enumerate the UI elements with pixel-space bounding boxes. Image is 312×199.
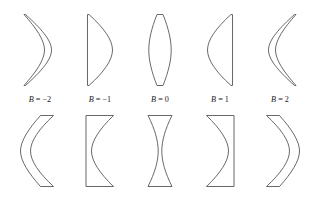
label-b-2: B = 2 <box>271 95 289 104</box>
lens-negative-b-minus-1 <box>86 116 114 187</box>
lens-positive-b-1 <box>208 15 233 86</box>
lens-negative-b-0 <box>148 116 172 187</box>
label-b-1: B = 1 <box>211 95 229 104</box>
positive-lens-row <box>24 15 296 86</box>
lens-negative-b-1 <box>207 116 235 187</box>
label-b-0: B = 0 <box>151 95 169 104</box>
lens-positive-b-minus-2 <box>24 15 52 86</box>
lens-positive-b-minus-1 <box>88 15 113 86</box>
shape-factor-labels: B = −2 B = −1 B = 0 B = 1 B = 2 <box>29 95 289 104</box>
label-b-minus-2: B = −2 <box>29 95 51 104</box>
lens-shape-factor-diagram: B = −2 B = −1 B = 0 B = 1 B = 2 <box>0 0 312 199</box>
lens-negative-b-2 <box>267 116 300 187</box>
lens-positive-b-2 <box>269 15 297 86</box>
lens-negative-b-minus-2 <box>21 116 54 187</box>
lens-positive-b-0 <box>149 15 171 86</box>
label-b-minus-1: B = −1 <box>89 95 111 104</box>
negative-lens-row <box>21 116 300 187</box>
